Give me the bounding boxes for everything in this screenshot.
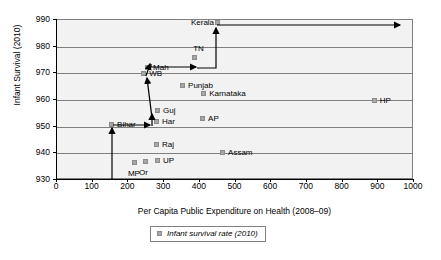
data-point-or [143,159,148,164]
y-axis-title: Infant Survival (2010) [12,0,22,140]
data-point-label-bihar: Bihar [117,121,136,129]
data-point-karnataka [201,91,206,96]
y-tick-label-990: 990 [0,15,50,24]
y-tick-mark-970 [53,72,56,73]
legend-marker-icon [157,231,162,236]
data-point-punjab [180,83,185,88]
data-point-mp [132,160,137,165]
data-point-label-ap: AP [208,115,219,123]
data-point-label-hp: HP [380,97,391,105]
x-tick-mark-0 [56,179,57,182]
data-point-assam [220,150,225,155]
x-tick-mark-1000 [413,179,414,182]
data-point-label-assam: Assam [228,149,252,157]
data-point-label-mp: MP [128,170,140,178]
y-tick-mark-980 [53,46,56,47]
x-tick-mark-900 [377,179,378,182]
gridline-970 [57,73,412,74]
data-point-label-har: Har [162,118,175,126]
data-point-label-wb: WB [149,70,162,78]
x-tick-mark-300 [163,179,164,182]
y-tick-label-980: 980 [0,42,50,51]
chart-legend: Infant survival rate (2010) [150,226,266,242]
data-point-kerala [215,20,220,25]
x-tick-label-700: 700 [286,182,326,191]
x-tick-label-900: 900 [357,182,397,191]
y-tick-label-950: 950 [0,122,50,131]
x-tick-mark-600 [270,179,271,182]
data-point-raj [154,142,159,147]
data-point-bihar [109,122,114,127]
x-tick-label-200: 200 [107,182,147,191]
y-tick-mark-990 [53,19,56,20]
x-tick-label-800: 800 [322,182,362,191]
x-tick-mark-400 [199,179,200,182]
x-tick-label-400: 400 [179,182,219,191]
x-tick-label-1000: 1000 [393,182,433,191]
x-tick-label-300: 300 [143,182,183,191]
x-tick-mark-200 [127,179,128,182]
data-point-label-karnataka: Karnataka [209,90,245,98]
x-tick-label-100: 100 [72,182,112,191]
x-tick-mark-100 [92,179,93,182]
gridline-980 [57,47,412,48]
data-point-label-or: Or [139,169,148,177]
data-point-label-up: UP [163,157,174,165]
data-point-tn [192,55,197,60]
data-point-up [155,158,160,163]
x-tick-mark-700 [306,179,307,182]
legend-label: Infant survival rate (2010) [167,229,258,238]
x-axis-title: Per Capita Public Expenditure on Health … [56,206,413,216]
data-point-ap [200,116,205,121]
data-point-label-tn: TN [193,45,204,53]
x-tick-mark-800 [342,179,343,182]
y-tick-mark-950 [53,126,56,127]
x-tick-label-600: 600 [250,182,290,191]
y-tick-label-940: 940 [0,148,50,157]
x-tick-mark-500 [235,179,236,182]
y-tick-label-970: 970 [0,68,50,77]
data-point-label-raj: Raj [162,141,174,149]
y-tick-label-960: 960 [0,95,50,104]
y-axis-line [56,19,57,180]
data-point-wb [141,71,146,76]
data-point-hp [372,98,377,103]
x-tick-label-500: 500 [215,182,255,191]
chart-container: 990 980 970 960 950 940 930 0 100 200 30… [0,0,441,260]
gridline-960 [57,100,412,101]
data-point-guj [155,108,160,113]
data-point-label-kerala: Kerala [191,19,214,27]
y-tick-mark-940 [53,152,56,153]
data-point-label-guj: Guj [163,107,175,115]
x-tick-label-0: 0 [36,182,76,191]
y-tick-mark-960 [53,99,56,100]
data-point-har [154,119,159,124]
